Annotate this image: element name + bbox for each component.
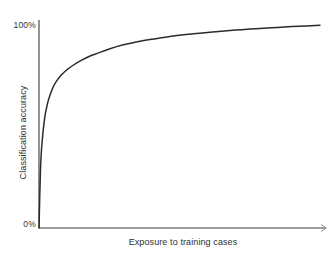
chart-container: 100% 0% Exposure to training cases Class… (0, 0, 336, 257)
x-axis-title: Exposure to training cases (63, 238, 303, 247)
y-axis-title: Classification accuracy (19, 68, 28, 198)
chart-plot-area (0, 0, 336, 257)
y-axis-tick-label-bottom: 0% (8, 220, 36, 229)
learning-curve-line (39, 25, 320, 228)
y-axis-tick-label-top: 100% (8, 21, 36, 30)
